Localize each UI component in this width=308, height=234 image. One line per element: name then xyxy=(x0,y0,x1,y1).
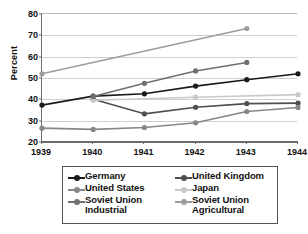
data-point xyxy=(39,71,44,76)
legend-label: United Kingdom xyxy=(192,171,264,181)
series-soviet-union-industrial xyxy=(91,60,250,99)
x-tick-label: 1939 xyxy=(31,147,51,157)
data-point xyxy=(295,71,300,76)
data-point xyxy=(193,84,198,89)
series-united-states xyxy=(39,105,300,132)
x-tick-label: 1940 xyxy=(82,147,102,157)
y-axis-label: Percent xyxy=(9,33,19,93)
data-point xyxy=(91,127,96,132)
data-point xyxy=(193,68,198,73)
data-point xyxy=(244,109,249,114)
series-layer xyxy=(42,14,298,142)
plot-area: 20304050607080 xyxy=(41,13,297,141)
data-point xyxy=(193,105,198,110)
chart-legend: GermanyUnited KingdomUnited StatesJapanS… xyxy=(62,166,278,224)
y-tick-label: 60 xyxy=(28,52,38,62)
legend-marker-icon xyxy=(68,172,85,183)
x-tick-mark xyxy=(41,141,42,144)
series-japan xyxy=(91,92,301,103)
x-tick-label: 1941 xyxy=(133,147,153,157)
series-soviet-union-agricultural xyxy=(39,26,249,76)
data-point xyxy=(39,102,44,107)
x-tick-label: 1944 xyxy=(287,147,307,157)
data-point xyxy=(244,26,249,31)
data-point xyxy=(244,77,249,82)
x-tick-label: 1942 xyxy=(185,147,205,157)
legend-marker-icon xyxy=(68,184,85,195)
chart-figure: Percent 20304050607080 19391940194119421… xyxy=(0,0,308,234)
data-point xyxy=(142,111,147,116)
data-point xyxy=(295,92,300,97)
data-point xyxy=(295,105,300,110)
series-line xyxy=(93,62,247,96)
legend-entry: Soviet Union Agricultural xyxy=(175,195,278,216)
data-point xyxy=(244,101,249,106)
legend-label: Soviet Union Industrial xyxy=(85,195,142,216)
legend-label: Soviet Union Agricultural xyxy=(192,195,249,216)
x-tick-mark xyxy=(92,141,93,144)
legend-label: Germany xyxy=(85,171,126,181)
legend-label: Japan xyxy=(192,183,219,193)
legend-entry: United Kingdom xyxy=(175,171,278,183)
x-tick-label: 1943 xyxy=(236,147,256,157)
data-point xyxy=(39,126,44,131)
legend-label: United States xyxy=(85,183,144,193)
y-tick-label: 80 xyxy=(28,9,38,19)
x-tick-mark xyxy=(143,141,144,144)
x-tick-mark xyxy=(246,141,247,144)
legend-marker-icon xyxy=(175,196,192,207)
y-tick-label: 30 xyxy=(28,116,38,126)
y-tick-label: 20 xyxy=(28,137,38,147)
data-point xyxy=(142,91,147,96)
data-point xyxy=(193,95,198,100)
y-tick-label: 40 xyxy=(28,94,38,104)
y-tick-label: 50 xyxy=(28,73,38,83)
data-point xyxy=(91,94,96,99)
legend-entry: Soviet Union Industrial xyxy=(68,195,171,216)
legend-marker-icon xyxy=(68,196,85,207)
x-tick-mark xyxy=(297,141,298,144)
data-point xyxy=(142,81,147,86)
data-point xyxy=(193,120,198,125)
y-tick-label: 70 xyxy=(28,30,38,40)
data-point xyxy=(244,60,249,65)
legend-marker-icon xyxy=(175,172,192,183)
legend-marker-icon xyxy=(175,184,192,195)
legend-grid: GermanyUnited KingdomUnited StatesJapanS… xyxy=(63,170,277,216)
data-point xyxy=(142,125,147,130)
x-tick-mark xyxy=(195,141,196,144)
x-axis: 193919401941194219431944 xyxy=(41,141,297,163)
series-line xyxy=(42,74,298,105)
